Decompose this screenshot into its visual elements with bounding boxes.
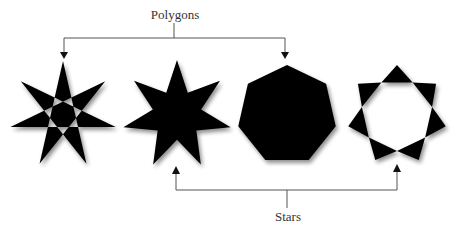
stars-connector <box>172 164 401 208</box>
hollow-star-shape <box>10 61 115 164</box>
ring-triangle <box>358 83 381 107</box>
diagram-canvas: Polygons Stars <box>0 0 455 232</box>
ring-triangle <box>369 137 397 160</box>
shapes-group <box>10 60 445 165</box>
stars-label: Stars <box>275 209 301 224</box>
ring-triangle <box>425 107 446 137</box>
heptagon-shape <box>238 65 335 160</box>
ring-triangle <box>348 107 369 137</box>
ring-triangle <box>413 83 436 107</box>
polygons-connector <box>60 23 289 59</box>
ring-triangle <box>397 137 425 160</box>
polygons-label: Polygons <box>151 7 199 22</box>
arrow-up-icon <box>393 164 401 172</box>
filled-star-shape <box>123 60 230 165</box>
arrow-up-icon <box>172 166 180 174</box>
arrow-down-icon <box>60 52 68 59</box>
arrow-down-icon <box>281 52 289 59</box>
ring-triangle <box>381 65 412 83</box>
